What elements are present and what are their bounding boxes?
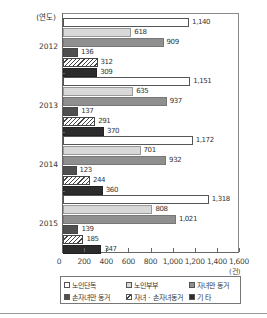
bar-value-label: 1,140 [192, 18, 210, 26]
bar-value-label: 137 [81, 107, 93, 115]
bar [63, 245, 101, 254]
x-tick-label: 1,400 [207, 257, 227, 266]
bar-value-label: 932 [169, 156, 181, 164]
bar-value-label: 139 [81, 225, 93, 233]
legend-swatch [189, 282, 195, 288]
x-tick-label: 200 [77, 257, 90, 266]
bar [63, 156, 166, 165]
bar [63, 195, 209, 204]
year-label: 2015 [12, 219, 58, 228]
bar-value-label: 635 [136, 87, 148, 95]
x-tick-label: 1,000 [163, 257, 183, 266]
year-label: 2013 [12, 101, 58, 110]
bar [63, 87, 133, 96]
x-tick [151, 248, 152, 252]
bar-value-label: 360 [106, 186, 118, 194]
y-tick [62, 132, 65, 133]
bar [63, 68, 97, 77]
bar [63, 127, 104, 136]
bar [63, 176, 90, 185]
bar [63, 186, 103, 195]
bar-value-label: 185 [86, 235, 98, 243]
legend-swatch [189, 294, 195, 300]
x-tick [173, 248, 174, 252]
bar [63, 18, 189, 27]
legend-swatch [64, 282, 70, 288]
bar-value-label: 312 [101, 58, 113, 66]
bar-value-label: 309 [100, 68, 112, 76]
x-tick [128, 248, 129, 252]
legend-swatch [126, 294, 132, 300]
x-tick-label: 1,600 [229, 257, 249, 266]
bar [63, 77, 190, 86]
bar-value-label: 701 [144, 146, 156, 154]
bar [63, 215, 176, 224]
y-axis-title: (연도) [12, 11, 56, 22]
bar [63, 107, 78, 116]
bar [63, 58, 98, 67]
x-tick [84, 248, 85, 252]
bar [63, 225, 78, 234]
legend-swatch [126, 282, 132, 288]
bar-value-label: 1,021 [179, 215, 197, 223]
bar-value-label: 1,172 [196, 136, 214, 144]
bar-value-label: 370 [107, 127, 119, 135]
x-tick [217, 248, 218, 252]
bar [63, 117, 95, 126]
x-tick [239, 248, 240, 252]
bar [63, 28, 131, 37]
x-axis-unit: (건) [229, 266, 240, 276]
bar-value-label: 937 [170, 97, 182, 105]
bar [63, 166, 77, 175]
bar [63, 146, 141, 155]
x-tick-label: 400 [100, 257, 113, 266]
bar [63, 38, 164, 47]
divider [0, 313, 267, 314]
legend-item-elderly-couple: 노인부부 [126, 280, 158, 290]
bar [63, 205, 152, 214]
legend-item-other: 기 타 [189, 292, 211, 302]
bar [63, 97, 167, 106]
bar-value-label: 618 [134, 28, 146, 36]
bar-value-label: 136 [81, 48, 93, 56]
bar [63, 136, 193, 145]
bar-value-label: 123 [80, 166, 92, 174]
bar-value-label: 1,318 [212, 195, 230, 203]
x-tick-label: 800 [144, 257, 157, 266]
legend-item-children-grandchildren: 자녀 · 손자녀동거 [126, 292, 183, 302]
x-tick [106, 248, 107, 252]
y-tick [62, 191, 65, 192]
legend-item-grandchildren-only: 손자녀만 동거 [64, 292, 110, 302]
bar-value-label: 808 [155, 205, 167, 213]
legend: 노인단독 노인부부 자녀만 동거 손자녀만 동거 자녀 · 손자녀동거 기 타 [60, 276, 241, 304]
year-label: 2014 [12, 160, 58, 169]
x-tick-label: 0 [57, 257, 61, 266]
bar [63, 235, 83, 244]
legend-swatch [64, 294, 70, 300]
bar-value-label: 1,151 [193, 77, 211, 85]
year-label: 2012 [12, 42, 58, 51]
x-tick-label: 1,200 [185, 257, 205, 266]
y-tick [62, 73, 65, 74]
legend-item-children-only: 자녀만 동거 [189, 280, 229, 290]
bar [63, 48, 78, 57]
bar-value-label: 244 [93, 176, 105, 184]
bar-value-label: 909 [167, 38, 179, 46]
bar-value-label: 291 [98, 117, 110, 125]
legend-item-elderly-alone: 노인단독 [64, 280, 96, 290]
x-tick [195, 248, 196, 252]
x-tick-label: 600 [122, 257, 135, 266]
